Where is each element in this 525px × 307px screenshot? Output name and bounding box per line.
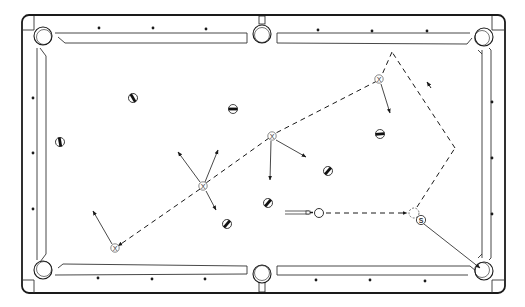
table-frame xyxy=(22,15,505,293)
pocket-top-left xyxy=(34,27,52,45)
pocket-top-center xyxy=(253,16,271,43)
striped-ball xyxy=(322,165,335,178)
object-ball: S xyxy=(416,215,425,224)
cue-ball-trajectory xyxy=(118,52,455,246)
pocket-bottom-right xyxy=(475,262,494,280)
striped-ball xyxy=(229,105,238,114)
deflection-marker: X xyxy=(268,132,276,140)
svg-text:X: X xyxy=(201,183,206,190)
svg-text:S: S xyxy=(419,217,424,224)
obstacle-balls xyxy=(55,92,385,230)
pockets xyxy=(34,16,493,292)
striped-ball xyxy=(55,137,65,147)
object-ball-path xyxy=(424,224,480,268)
rail-diamonds xyxy=(32,27,494,283)
deflection-marker: X xyxy=(111,244,119,252)
striped-ball xyxy=(375,129,385,139)
svg-text:X: X xyxy=(270,133,275,140)
trajectory-direction-arrow xyxy=(427,82,431,88)
deflection-marker: X xyxy=(199,182,207,190)
deflection-arrows xyxy=(93,84,390,244)
striped-ball xyxy=(221,218,234,231)
svg-text:X: X xyxy=(113,245,118,252)
cue-ball xyxy=(315,209,324,218)
cue-stick xyxy=(285,211,313,214)
striped-ball xyxy=(127,92,139,104)
deflection-marker: X xyxy=(375,75,383,83)
pocket-top-right xyxy=(475,28,494,46)
pocket-bottom-left xyxy=(34,261,52,279)
pool-table-diagram: S X X X X xyxy=(0,0,525,307)
striped-ball xyxy=(262,197,275,210)
svg-text:X: X xyxy=(377,76,382,83)
pocket-bottom-center xyxy=(253,265,271,292)
table-svg: S X X X X xyxy=(0,0,525,307)
rails xyxy=(22,16,505,293)
